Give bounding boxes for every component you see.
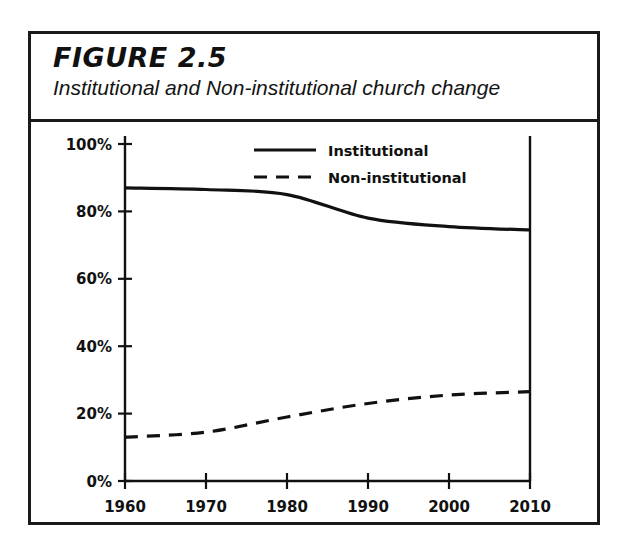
line-chart: 0%20%40%60%80%100%1960197019801990200020… [31, 122, 597, 522]
legend-label: Non-institutional [328, 170, 466, 186]
legend-label: Institutional [328, 143, 428, 159]
y-tick-label: 100% [66, 136, 112, 154]
x-tick-label: 1980 [266, 498, 308, 516]
y-tick-label: 80% [76, 203, 112, 221]
y-tick-label: 60% [76, 270, 112, 288]
series-line-institutional [125, 188, 530, 230]
figure-number: FIGURE 2.5 [53, 44, 597, 72]
x-tick-label: 1970 [185, 498, 227, 516]
figure-frame: FIGURE 2.5 Institutional and Non-institu… [28, 31, 600, 525]
chart-region: 0%20%40%60%80%100%1960197019801990200020… [31, 122, 597, 522]
x-tick-label: 2010 [509, 498, 551, 516]
x-tick-label: 1990 [347, 498, 389, 516]
x-tick-label: 2000 [428, 498, 470, 516]
figure-header: FIGURE 2.5 Institutional and Non-institu… [31, 34, 597, 122]
series-line-non-institutional [125, 392, 530, 438]
x-tick-label: 1960 [104, 498, 146, 516]
figure-subtitle: Institutional and Non-institutional chur… [53, 76, 597, 100]
y-tick-label: 40% [76, 338, 112, 356]
y-tick-label: 20% [76, 405, 112, 423]
y-tick-label: 0% [87, 473, 112, 491]
